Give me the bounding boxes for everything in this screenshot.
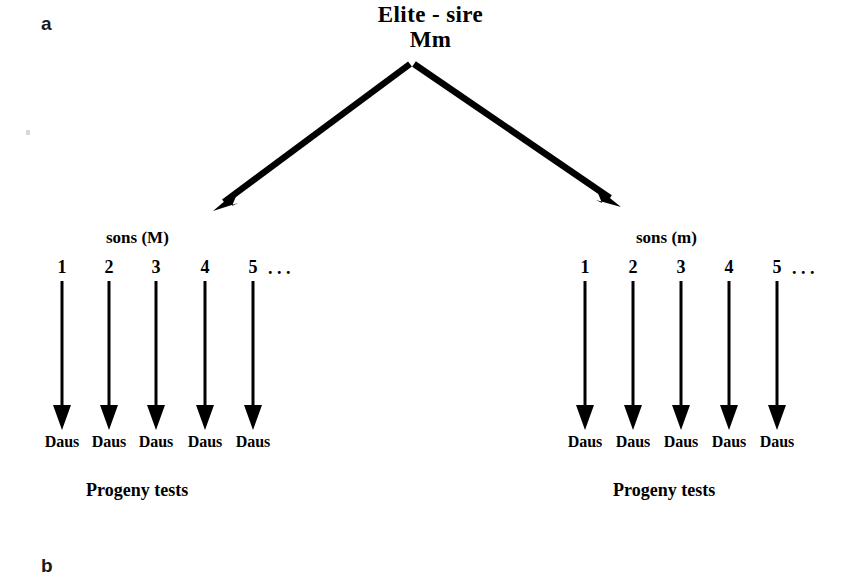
son-number-left-4: 4 [192, 258, 218, 276]
daus-label-right-3: Daus [654, 434, 708, 450]
son-ellipsis-right: . . . [792, 259, 815, 277]
branch-line-left [224, 64, 410, 202]
daus-label-right-2: Daus [606, 434, 660, 450]
daus-label-left-2: Daus [82, 434, 136, 450]
daus-label-right-4: Daus [702, 434, 756, 450]
daus-label-right-5: Daus [750, 434, 804, 450]
son-number-left-5: 5 [240, 258, 266, 276]
scan-artifact [26, 130, 30, 135]
son-number-right-2: 2 [620, 258, 646, 276]
group-heading-sons-m-dominant: sons (M) [106, 229, 169, 246]
group-heading-sons-m-recessive: sons (m) [636, 229, 697, 246]
daus-label-left-3: Daus [129, 434, 183, 450]
son-number-left-3: 3 [143, 258, 169, 276]
progeny-tests-caption-left: Progeny tests [86, 481, 188, 499]
son-number-right-1: 1 [572, 258, 598, 276]
branch-line-right [414, 64, 610, 198]
branch-arrowhead-left [213, 189, 239, 211]
branch-arrowhead-right [595, 186, 621, 207]
daus-label-left-4: Daus [178, 434, 232, 450]
elite-sire-title: Elite - sire [0, 2, 861, 28]
son-number-right-5: 5 [764, 258, 790, 276]
progeny-tests-caption-right: Progeny tests [613, 481, 715, 499]
son-number-left-1: 1 [49, 258, 75, 276]
daus-label-right-1: Daus [558, 434, 612, 450]
son-number-right-3: 3 [668, 258, 694, 276]
daus-label-left-1: Daus [35, 434, 89, 450]
elite-sire-genotype: Mm [0, 27, 861, 53]
son-arrows-left [53, 281, 262, 430]
son-ellipsis-left: . . . [268, 259, 291, 277]
pedigree-figure: a Elite - sire Mm [0, 0, 861, 584]
son-number-left-2: 2 [96, 258, 122, 276]
son-number-right-4: 4 [716, 258, 742, 276]
panel-label-b: b [41, 556, 53, 575]
daus-label-left-5: Daus [226, 434, 280, 450]
son-arrows-right [576, 281, 786, 430]
